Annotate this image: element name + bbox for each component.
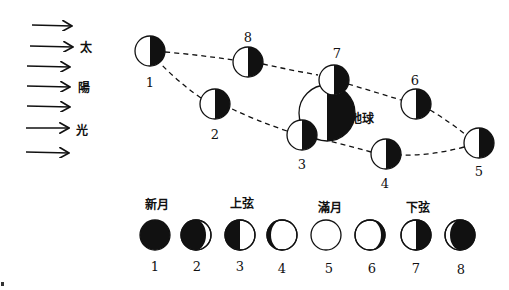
phase-number: 4 [278,262,286,275]
phase-number: 3 [236,260,244,273]
orbit-moon-2 [200,89,230,119]
orbit-number: 6 [411,74,419,87]
arrow-icon [27,106,70,107]
phase-first-quarter-icon [225,220,255,250]
phase-full-moon-icon [311,220,341,250]
orbit-moon-7 [319,65,349,95]
phase-waxing-crescent-icon [181,220,211,250]
orbit-number: 8 [244,31,252,44]
sunlight-label-char: 太 [80,42,92,54]
orbit-number: 3 [298,158,306,171]
phase-number: 2 [193,260,201,273]
phase-waxing-gibbous-icon [267,220,297,250]
phase-number: 7 [412,262,420,275]
orbit-moon-1 [135,36,165,66]
orbit-number: 7 [333,47,341,60]
phase-name-new-moon: 新月 [145,199,169,211]
sunlight-label-char: 光 [76,125,88,137]
sunlight-label-char: 陽 [78,82,90,94]
phase-name-full-moon: 滿月 [318,202,342,214]
phase-number: 1 [151,260,159,273]
arrow-icon [30,46,73,47]
arrow-icon [27,66,70,67]
orbit-number: 4 [381,177,389,190]
orbit-number: 2 [211,128,219,141]
phase-number: 6 [368,262,376,275]
phase-name-first-quarter: 上弦 [230,198,254,210]
phase-row [140,220,475,250]
phase-new-moon-icon [140,220,170,250]
phase-name-last-quarter: 下弦 [406,202,430,214]
orbit-moon-3 [287,120,317,150]
arrow-icon [27,86,70,87]
orbit-moon-4 [371,139,401,169]
phase-waning-crescent-icon [445,220,475,250]
orbit-moon-5 [464,128,494,158]
sunlight-arrows [26,25,73,153]
phase-waning-gibbous-icon [355,220,385,250]
phase-number: 8 [457,263,465,276]
orbit-number: 5 [475,165,483,178]
orbit-number: 1 [146,76,154,89]
corner-mark [1,282,4,286]
arrow-icon [26,152,69,153]
phase-last-quarter-icon [401,220,431,250]
orbit-moon-8 [233,47,263,77]
arrow-icon [32,25,72,26]
moon-phase-diagram: 太 陽 光 地球 1 2 3 4 5 6 7 8 新月 上弦 滿月 下弦 1 2… [0,0,509,290]
phase-number: 5 [325,262,333,275]
orbit-moon-6 [401,89,431,119]
earth-label: 地球 [350,113,374,125]
